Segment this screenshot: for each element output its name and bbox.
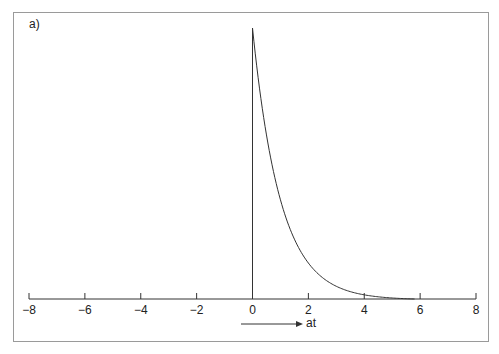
chart: −8−6−4−202468 [0,0,499,354]
x-tick-label: −2 [190,303,204,317]
x-tick-label: −4 [134,303,148,317]
x-tick-label: −8 [22,303,36,317]
series-line-exponential-decay [253,28,415,299]
x-axis-arrow-head [296,321,303,327]
x-tick-label: 0 [249,303,256,317]
x-tick-label: 4 [361,303,368,317]
x-tick-label: −6 [78,303,92,317]
x-tick-label: 2 [305,303,312,317]
x-tick-label: 8 [473,303,480,317]
x-tick-labels: −8−6−4−202468 [22,303,480,317]
x-axis-label: at [306,316,316,330]
x-tick-label: 6 [417,303,424,317]
